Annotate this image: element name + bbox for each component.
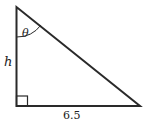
angle-arc: [17, 25, 42, 37]
height-h-label: h: [4, 54, 12, 69]
angle-theta-label: θ: [22, 27, 29, 40]
right-angle-marker: [17, 96, 28, 106]
right-triangle-diagram: θ h 6.5: [0, 0, 144, 120]
triangle-outline: [17, 7, 141, 106]
base-length-label: 6.5: [63, 109, 81, 120]
